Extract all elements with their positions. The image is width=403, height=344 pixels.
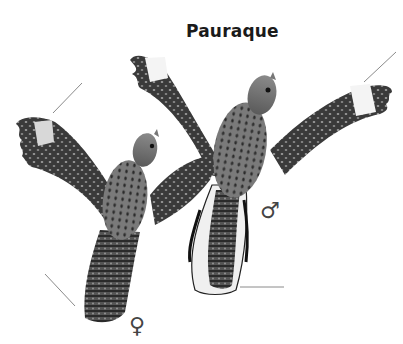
- leader-line-male-wing: [364, 52, 396, 82]
- male-symbol: ♂: [260, 198, 280, 223]
- female-symbol: ♀: [129, 313, 145, 338]
- species-title: Pauraque: [186, 21, 279, 41]
- leader-line-female-tail: [45, 274, 75, 306]
- leader-line-female-wing: [53, 83, 82, 113]
- pauraque-illustration: [0, 0, 403, 344]
- illustration-plate: Pauraque ♂ ♀: [0, 0, 403, 344]
- female-pauraque: [16, 117, 214, 322]
- male-pauraque: [130, 56, 392, 295]
